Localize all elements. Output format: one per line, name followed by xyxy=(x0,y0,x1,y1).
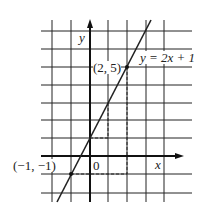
point-neg1-neg1 xyxy=(69,172,73,176)
graph xyxy=(0,0,217,215)
grid xyxy=(41,20,192,202)
point-label-2-5: (2, 5) xyxy=(93,61,121,74)
y-axis-arrow xyxy=(87,19,93,28)
x-axis-arrow xyxy=(175,153,184,159)
x-axis-label: x xyxy=(155,158,161,171)
origin-label: 0 xyxy=(93,159,100,172)
point-label-neg1-neg1: (−1, −1) xyxy=(13,159,56,172)
equation-label: y = 2x + 1 xyxy=(140,51,195,64)
y-axis-label: y xyxy=(79,31,85,44)
point-2-5 xyxy=(125,65,129,69)
